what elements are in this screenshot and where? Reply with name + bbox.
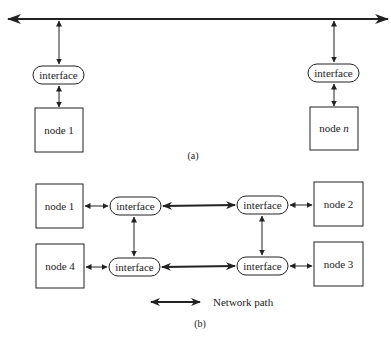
interface-label: interface xyxy=(314,67,353,79)
interface-label: interface xyxy=(116,200,155,212)
caption-b: (b) xyxy=(194,318,206,330)
diagram-b: node 1 node 4 node 2 node 3 interface in… xyxy=(36,182,363,330)
diagram-a: interface node 1 interface node n (a) xyxy=(8,19,388,162)
node-label: node 1 xyxy=(45,200,75,212)
node-b-1: node 1 xyxy=(36,184,83,228)
node-b-4: node 4 xyxy=(36,244,84,288)
caption-a: (a) xyxy=(187,150,198,162)
interface-b-3: interface xyxy=(237,257,288,275)
network-diagram: interface node 1 interface node n (a) no… xyxy=(0,0,391,338)
node-a-1: node 1 xyxy=(35,108,83,152)
node-label: node 2 xyxy=(324,198,354,210)
interface-label: interface xyxy=(39,69,78,81)
legend: Network path xyxy=(151,296,274,308)
interface-label: interface xyxy=(243,199,282,211)
legend-label: Network path xyxy=(213,296,274,308)
network-path-top xyxy=(163,205,235,206)
node-b-3: node 3 xyxy=(314,242,363,286)
interface-b-1: interface xyxy=(110,197,161,215)
interface-a-node1: interface xyxy=(33,66,84,84)
node-label: node 3 xyxy=(324,258,354,270)
node-label: node 4 xyxy=(45,260,75,272)
node-b-2: node 2 xyxy=(314,182,363,226)
interface-b-2: interface xyxy=(237,196,288,214)
interface-b-4: interface xyxy=(109,258,160,276)
network-path-bottom xyxy=(162,266,235,267)
interface-a-noden: interface xyxy=(308,64,359,82)
interface-label: interface xyxy=(115,261,154,273)
node-label: node n xyxy=(319,122,349,134)
node-label: node 1 xyxy=(44,124,74,136)
interface-label: interface xyxy=(243,260,282,272)
node-a-n: node n xyxy=(310,107,358,150)
